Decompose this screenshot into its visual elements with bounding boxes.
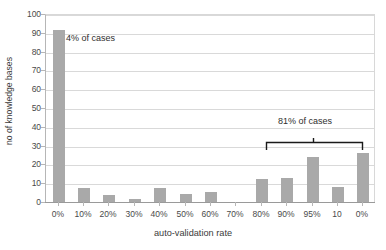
x-axis-tick-mark (235, 202, 236, 206)
gridline (46, 71, 374, 72)
y-axis-ticks: 0102030405060708090100 (0, 0, 41, 250)
gridline (46, 128, 374, 129)
y-axis-tick-label: 70 (1, 66, 41, 74)
annotation-left-percent-of-cases: 4% of cases (66, 33, 115, 43)
bar-chart: no of knowledge bases 010203040506070809… (0, 0, 386, 250)
bar (205, 192, 217, 202)
gridline (46, 109, 374, 110)
y-axis-tick-label: 100 (1, 10, 41, 18)
bar (154, 188, 166, 202)
bar (281, 178, 293, 202)
x-axis-tick-mark (312, 202, 313, 206)
y-axis-tick-label: 60 (1, 85, 41, 93)
bar (103, 195, 115, 202)
gridline (46, 90, 374, 91)
x-axis-tick-label: 0% (342, 209, 382, 219)
x-axis-tick-mark (286, 202, 287, 206)
x-axis-tick-mark (261, 202, 262, 206)
y-axis-tick-label: 0 (1, 198, 41, 206)
x-axis-tick-mark (108, 202, 109, 206)
x-axis-tick-mark (337, 202, 338, 206)
y-axis-tick-label: 30 (1, 142, 41, 150)
y-axis-tick-label: 20 (1, 160, 41, 168)
x-axis-tick-mark (159, 202, 160, 206)
x-axis-tick-mark (134, 202, 135, 206)
x-axis-tick-mark (83, 202, 84, 206)
annotation-right-percent-of-cases: 81% of cases (278, 116, 332, 126)
x-axis-tick-mark (58, 202, 59, 206)
gridline (46, 184, 374, 185)
bar (332, 187, 344, 202)
bar (357, 153, 369, 202)
x-axis-tick-mark (210, 202, 211, 206)
x-axis-ticks: 0%10%20%30%40%50%60%70%80%90%95%100% (45, 202, 375, 222)
gridline (46, 15, 374, 16)
bar (180, 194, 192, 202)
gridline (46, 53, 374, 54)
x-axis-tick-mark (362, 202, 363, 206)
bar (256, 179, 268, 202)
bar (53, 30, 65, 202)
brace-bracket (265, 138, 364, 150)
y-axis-tick-label: 40 (1, 123, 41, 131)
x-axis-title: auto-validation rate (0, 228, 386, 238)
gridline (46, 165, 374, 166)
bar (78, 188, 90, 202)
bar (307, 157, 319, 202)
x-axis-tick-mark (185, 202, 186, 206)
y-axis-tick-label: 50 (1, 104, 41, 112)
y-axis-tick-label: 90 (1, 29, 41, 37)
y-axis-tick-label: 10 (1, 179, 41, 187)
y-axis-tick-label: 80 (1, 48, 41, 56)
